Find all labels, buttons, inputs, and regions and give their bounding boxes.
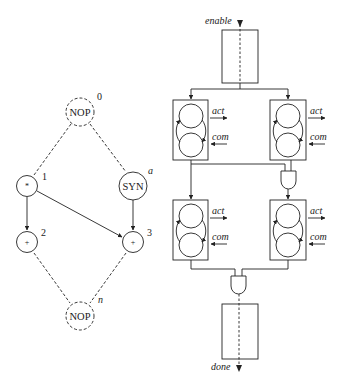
- unit4-com-label: com: [310, 231, 327, 242]
- edge-n1-n3: [37, 191, 122, 237]
- and-gate-1: [281, 171, 296, 189]
- node-3-op: +: [131, 238, 136, 247]
- unit4-act-label: act: [310, 205, 322, 216]
- enable-label: enable: [205, 15, 232, 26]
- node-1-label: 1: [42, 171, 47, 182]
- unit3-act-label: act: [212, 205, 224, 216]
- wire-unit1-and1: [191, 164, 285, 171]
- node-nop-0-op: NOP: [69, 107, 90, 118]
- enable-arrow-icon: [237, 20, 243, 27]
- node-syn-label: a: [148, 165, 153, 176]
- diagram-canvas: NOP 0 * 1 SYN a + 2 + 3 NOP n: [0, 0, 341, 387]
- edge-n2-nn: [34, 253, 70, 303]
- edge-n3-nn: [90, 253, 126, 303]
- node-nop-n-op: NOP: [69, 311, 90, 322]
- node-3-label: 3: [147, 227, 152, 238]
- node-syn-op: SYN: [122, 181, 143, 192]
- done-arrow-icon: [236, 365, 242, 372]
- edge-n0-na: [90, 124, 126, 172]
- controller-labels: enable done act com act com act com act …: [205, 15, 327, 372]
- dataflow-labels: NOP 0 * 1 SYN a + 2 + 3 NOP n: [25, 91, 153, 322]
- unit1-act-label: act: [212, 105, 224, 116]
- unit1-com-label: com: [212, 131, 229, 142]
- and-gate-2: [231, 276, 246, 294]
- wire-unit4-and2: [242, 260, 288, 276]
- node-nop-n-label: n: [98, 294, 103, 305]
- done-box: [222, 304, 258, 359]
- done-label: done: [211, 361, 231, 372]
- dataflow-graph: [17, 98, 148, 330]
- unit2-com-label: com: [310, 131, 327, 142]
- node-nop-0-label: 0: [97, 91, 102, 102]
- unit3-com-label: com: [212, 231, 229, 242]
- node-2-op: +: [25, 238, 30, 247]
- node-1-op: *: [25, 182, 29, 191]
- edge-n0-n1: [34, 124, 71, 175]
- node-2-label: 2: [41, 227, 46, 238]
- wire-unit3-and2: [191, 260, 235, 276]
- unit2-act-label: act: [310, 105, 322, 116]
- controller: [173, 20, 325, 372]
